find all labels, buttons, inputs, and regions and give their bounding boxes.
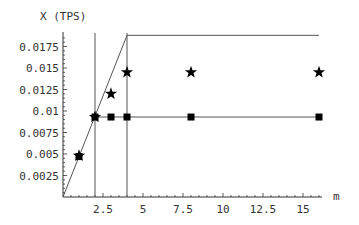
x-tick-label: 2.5 <box>93 203 113 216</box>
square-marker <box>108 114 115 121</box>
y-axis-title: X (TPS) <box>40 10 86 23</box>
y-tick-label: 0.0175 <box>19 41 59 54</box>
y-tick-label: 0.01 <box>33 105 60 118</box>
y-tick-label: 0.0125 <box>19 84 59 97</box>
y-tick-label: 0.0025 <box>19 170 59 183</box>
chart: 2.557.51012.5150.00250.0050.00750.010.01… <box>0 0 359 225</box>
y-tick-label: 0.0075 <box>19 127 59 140</box>
x-tick-label: 5 <box>140 203 147 216</box>
star-marker <box>185 66 197 78</box>
x-tick-label: 15 <box>296 203 309 216</box>
x-axis-title: m <box>333 190 340 203</box>
plot-markers <box>73 66 325 161</box>
star-marker <box>313 66 325 78</box>
y-tick-label: 0.015 <box>26 62 59 75</box>
y-tick-label: 0.005 <box>26 148 59 161</box>
square-marker <box>124 114 131 121</box>
square-marker <box>188 114 195 121</box>
x-tick-label: 12.5 <box>250 203 277 216</box>
x-tick-label: 10 <box>216 203 229 216</box>
axis-ticks: 2.557.51012.5150.00250.0050.00750.010.01… <box>19 38 319 216</box>
x-tick-label: 7.5 <box>173 203 193 216</box>
star-marker <box>105 87 117 99</box>
square-marker <box>316 114 323 121</box>
